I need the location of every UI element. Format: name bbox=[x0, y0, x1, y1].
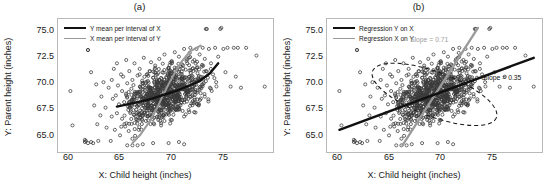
y-tick-75.0-b: 75.0 bbox=[305, 25, 323, 35]
y-tick-67.5-b: 67.5 bbox=[305, 103, 323, 113]
x-tick-65: 65 bbox=[114, 152, 124, 162]
y-tick-70.0-b: 70.0 bbox=[305, 77, 323, 87]
legend-item-reg-y-on-x: Regression Y on X bbox=[333, 23, 414, 33]
y-tick-72.5-b: 72.5 bbox=[305, 51, 323, 61]
x-tick-75-b: 75 bbox=[487, 152, 497, 162]
panel-a-x-axis-label: X: Child height (inches) bbox=[20, 170, 270, 180]
figure-two-panel-regression: (a) Y: Parent height (inches) 75.0 72.5 … bbox=[0, 0, 558, 189]
panel-b: (b) Y: Parent height (inches) 75.0 72.5 … bbox=[279, 0, 558, 189]
x-tick-60-b: 60 bbox=[332, 152, 342, 162]
y-tick-75.0: 75.0 bbox=[36, 25, 54, 35]
y-tick-65.0-b: 65.0 bbox=[305, 130, 323, 140]
legend-label-x-mean: X mean per interval of Y bbox=[90, 35, 161, 42]
x-tick-65-b: 65 bbox=[384, 152, 394, 162]
y-tick-72.5: 72.5 bbox=[36, 51, 54, 61]
y-tick-70.0: 70.0 bbox=[36, 77, 54, 87]
x-tick-75: 75 bbox=[218, 152, 228, 162]
legend-swatch-gray-icon-b bbox=[333, 38, 355, 39]
legend-swatch-gray-icon bbox=[64, 38, 86, 39]
x-tick-60: 60 bbox=[63, 152, 73, 162]
panel-b-x-axis-label: X: Child height (inches) bbox=[289, 170, 539, 180]
annotation-slope-071: Slope = 0.71 bbox=[410, 36, 448, 43]
panel-a: (a) Y: Parent height (inches) 75.0 72.5 … bbox=[0, 0, 279, 189]
legend-swatch-black-icon bbox=[64, 27, 86, 29]
panel-b-scatter-points bbox=[338, 26, 535, 147]
x-tick-70: 70 bbox=[166, 152, 176, 162]
panel-a-x-ticks: 60 65 70 75 bbox=[0, 152, 279, 166]
panel-a-y-axis-label-text: Y: Parent height (inches) bbox=[3, 38, 13, 137]
panel-b-x-ticks: 60 65 70 75 bbox=[279, 152, 558, 166]
panel-a-y-axis-label: Y: Parent height (inches) bbox=[1, 22, 15, 152]
legend-item-reg-x-on-y: Regression X on Y bbox=[333, 33, 414, 43]
panel-b-legend: Regression Y on X Regression X on Y bbox=[333, 23, 414, 43]
legend-label-reg-y-on-x: Regression Y on X bbox=[359, 25, 414, 32]
y-tick-67.5: 67.5 bbox=[36, 103, 54, 113]
legend-label-y-mean: Y mean per interval of X bbox=[90, 25, 161, 32]
annotation-slope-035: Slope = 0.35 bbox=[483, 74, 521, 81]
x-tick-70-b: 70 bbox=[435, 152, 445, 162]
legend-item-x-mean: X mean per interval of Y bbox=[64, 33, 161, 43]
panel-a-legend: Y mean per interval of X X mean per inte… bbox=[64, 23, 161, 43]
legend-item-y-mean: Y mean per interval of X bbox=[64, 23, 161, 33]
y-tick-65.0: 65.0 bbox=[36, 130, 54, 140]
legend-label-reg-x-on-y: Regression X on Y bbox=[359, 35, 414, 42]
legend-swatch-black-icon-b bbox=[333, 27, 355, 29]
